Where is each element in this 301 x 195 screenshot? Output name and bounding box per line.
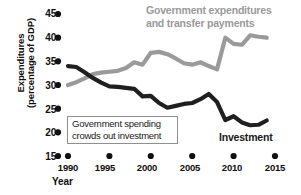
callout-line-1: Government spending [72,118,177,130]
x-tick-label-1995: 1995 [88,162,122,173]
series-label-government-line1: Government expenditures [146,4,296,17]
y-tick-label-35: 35 [34,56,56,67]
series-line-government [68,35,267,85]
y-tick-label-20: 20 [34,127,56,138]
y-tick-label-30: 30 [34,80,56,91]
y-tick-label-40: 40 [34,32,56,43]
callout-annotation-box: Government spending crowds out investmen… [67,116,178,144]
x-tick-label-1990: 1990 [51,162,85,173]
series-label-government-line2: and transfer payments [146,17,296,30]
chart-container: Expenditures (percentage of GDP) 45 40 3… [0,0,301,195]
series-label-government: Government expenditures and transfer pay… [146,4,296,30]
callout-line-2: crowds out investment [72,130,177,142]
x-tick-label-2000: 2000 [130,162,164,173]
x-tick-dot-2015 [272,153,278,159]
x-tick-label-2010: 2010 [215,162,249,173]
x-tick-label-2005: 2005 [173,162,207,173]
x-tick-dot-1990 [65,153,71,159]
y-tick-label-15: 15 [34,151,56,162]
x-tick-dot-1995 [106,153,112,159]
x-axis-title: Year [52,176,73,187]
x-tick-dot-2010 [231,153,237,159]
y-tick-label-45: 45 [34,8,56,19]
x-tick-dot-2000 [148,153,154,159]
y-tick-label-25: 25 [34,104,56,115]
x-tick-label-2015: 2015 [258,162,292,173]
x-tick-dot-2005 [189,153,195,159]
series-label-investment: Investment [219,131,272,143]
